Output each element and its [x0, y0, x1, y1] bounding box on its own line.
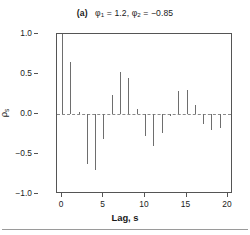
acf-stem [87, 114, 88, 164]
y-tick-mark [34, 73, 38, 74]
acf-stem [178, 91, 179, 114]
panel-label: (a) [77, 8, 88, 18]
acf-stem [103, 114, 104, 139]
x-tick-mark [144, 193, 145, 197]
acf-stem [203, 114, 204, 124]
acf-stem-series [57, 34, 231, 192]
y-tick-label: 1.0 [20, 28, 32, 38]
x-tick-label: 10 [139, 199, 148, 209]
acf-stem [170, 114, 171, 116]
x-tick-label: 0 [59, 199, 64, 209]
y-tick-label: −1.0 [15, 188, 32, 198]
acf-stem [195, 105, 196, 114]
x-tick-mark [102, 193, 103, 197]
y-tick-label: −0.5 [15, 148, 32, 158]
acf-stem [95, 114, 96, 170]
acf-stem [62, 34, 63, 114]
acf-stem [162, 114, 163, 133]
title-parameters: φ1 = 1.2, φ2 = −0.85 [90, 8, 173, 18]
figure-bottom-rule [2, 229, 248, 230]
y-tick-mark [34, 193, 38, 194]
x-tick-label: 20 [222, 199, 231, 209]
acf-stem [79, 112, 80, 114]
acf-stem [112, 95, 113, 114]
acf-stem [220, 114, 221, 128]
acf-stem [145, 114, 146, 136]
acf-stem [137, 109, 138, 114]
x-tick-mark [227, 193, 228, 197]
y-tick-mark [34, 113, 38, 114]
x-tick-label: 5 [100, 199, 105, 209]
x-tick-label: 15 [181, 199, 190, 209]
y-tick-label: 0.0 [20, 108, 32, 118]
y-tick-mark [34, 33, 38, 34]
acf-stem [128, 78, 129, 114]
acf-stem [70, 62, 71, 114]
plot-area [56, 33, 232, 193]
acf-stem [153, 114, 154, 146]
acf-stem [187, 90, 188, 114]
acf-stem [211, 114, 212, 130]
y-tick-mark [34, 153, 38, 154]
acf-figure-panel-a: (a) φ1 = 1.2, φ2 = −0.85 ρs 1.00.50.0−0.… [0, 0, 250, 235]
y-tick-label: 0.5 [20, 68, 32, 78]
acf-stem [120, 72, 121, 114]
x-tick-mark [61, 193, 62, 197]
x-axis-label: Lag, s [0, 212, 250, 223]
y-axis-ticks: 1.00.50.0−0.5−1.0 [0, 0, 56, 235]
x-tick-mark [186, 193, 187, 197]
